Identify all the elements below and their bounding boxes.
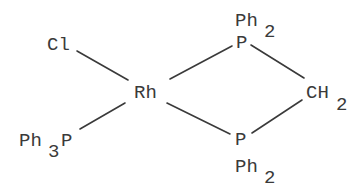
ph3p-p: P — [61, 130, 72, 152]
chemical-structure-diagram: Cl Rh Ph 3 P Ph 2 P CH 2 P Ph 2 — [0, 0, 364, 196]
bond-rh-p-top — [170, 46, 232, 79]
atom-cl: Cl — [47, 34, 70, 56]
top-ph: Ph — [235, 10, 258, 32]
ch2-ch: CH — [306, 82, 329, 104]
bond-p-top-ch2 — [251, 45, 304, 78]
atom-p-top: P — [236, 32, 247, 54]
ph3p-subscript: 3 — [48, 141, 59, 163]
bond-cl-rh — [77, 51, 128, 80]
bond-rh-p-bottom — [167, 103, 230, 134]
ph3p-ph: Ph — [19, 130, 42, 152]
bottom-ph-subscript: 2 — [264, 167, 275, 189]
top-ph-subscript: 2 — [264, 21, 275, 43]
atom-labels: Cl Rh Ph 3 P Ph 2 P CH 2 P Ph 2 — [19, 10, 347, 189]
bottom-ph: Ph — [235, 156, 258, 178]
bond-ch2-p-bottom — [252, 100, 302, 133]
bonds — [77, 45, 304, 134]
atom-p-bottom: P — [235, 129, 246, 151]
bond-rh-pph3 — [80, 103, 125, 129]
ch2-subscript: 2 — [336, 94, 347, 116]
atom-rh: Rh — [134, 82, 157, 104]
group-ch2: CH 2 — [306, 82, 347, 116]
ligand-bottom-ph2: Ph 2 — [235, 156, 275, 189]
ligand-ph3p: Ph 3 P — [19, 130, 72, 163]
